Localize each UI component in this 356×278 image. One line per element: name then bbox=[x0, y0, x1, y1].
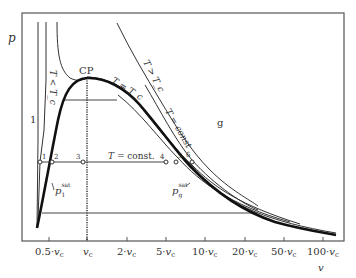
x-tick-label: 20·vc bbox=[232, 246, 258, 259]
x-tick-label: 10·vc bbox=[192, 246, 218, 259]
state-point-label: 2 bbox=[54, 153, 58, 161]
x-tick-label: 5·vc bbox=[156, 246, 175, 259]
state-point-3 bbox=[81, 160, 85, 164]
y-axis-label: p bbox=[8, 31, 16, 45]
pv-diagram: p v 0.5·vc vc 2·vc 5·vc 10·vc 20·vc 50·v… bbox=[0, 0, 356, 278]
state-point-label: 6 bbox=[186, 151, 191, 159]
isotherm-label-const: T = const bbox=[163, 107, 194, 150]
state-point-6 bbox=[190, 160, 194, 164]
x-axis-label: v bbox=[318, 262, 324, 273]
state-point-4 bbox=[164, 160, 168, 164]
isotherm-label-below-critical: T < T_c bbox=[47, 70, 58, 105]
x-tick-labels: 0.5·vc vc 2·vc 5·vc 10·vc 20·vc 50·vc 10… bbox=[35, 246, 339, 259]
p-sat-liquid-leader bbox=[52, 183, 54, 190]
p-sat-liquid-label: psat1 bbox=[55, 181, 71, 198]
x-tick-label: 50·vc bbox=[271, 246, 297, 259]
gas-region-label: g bbox=[217, 117, 224, 128]
isobar-label: T = const. bbox=[108, 151, 155, 161]
x-tick-label: 100·vc bbox=[307, 246, 339, 259]
state-point-label: 3 bbox=[76, 153, 80, 161]
x-tick-label: 0.5·vc bbox=[35, 246, 64, 259]
state-point-label: 5 bbox=[178, 152, 182, 160]
isotherm-label-critical: T = T_c bbox=[109, 75, 144, 103]
x-tick-label: 2·vc bbox=[117, 246, 136, 259]
state-point-label: 4 bbox=[160, 153, 165, 161]
liquid-region-label: 1 bbox=[30, 114, 36, 125]
p-sat-gas-label: psatg bbox=[172, 181, 188, 199]
x-ticks bbox=[49, 237, 323, 241]
state-point-label: 1 bbox=[42, 153, 46, 161]
x-tick-label: vc bbox=[83, 246, 93, 259]
state-point-5 bbox=[174, 160, 178, 164]
critical-point-label: CP bbox=[79, 65, 94, 76]
liquid-isotherms bbox=[37, 22, 46, 228]
